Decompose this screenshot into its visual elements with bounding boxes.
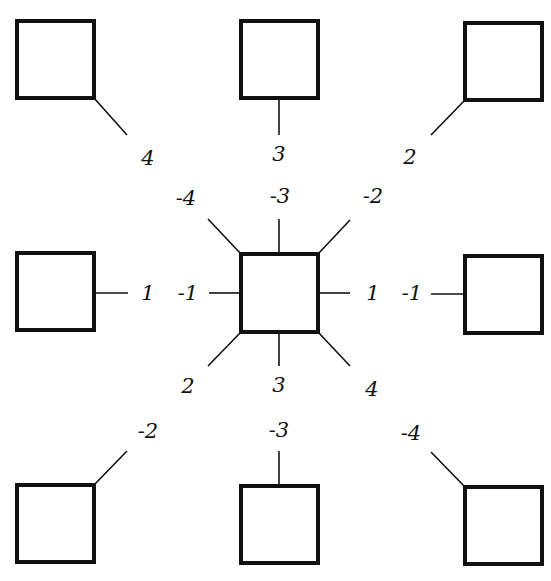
square-center xyxy=(241,254,318,332)
label-middle-right: -1 xyxy=(402,281,422,305)
label-top-middle: 3 xyxy=(272,142,285,166)
center-label-left: -1 xyxy=(178,281,198,305)
label-bottom-left: -2 xyxy=(138,419,158,443)
square-top-right xyxy=(465,23,542,100)
square-top-left xyxy=(17,21,94,98)
center-label-upper-left: -4 xyxy=(176,186,196,210)
center-stub-lower-right xyxy=(318,332,350,366)
label-top-left: 4 xyxy=(140,146,154,170)
center-label-right: 1 xyxy=(366,281,379,305)
center-stub-upper-left xyxy=(208,219,241,254)
square-middle-left xyxy=(17,253,94,330)
label-middle-left: 1 xyxy=(141,281,154,305)
stub-bottom-left xyxy=(94,451,127,485)
center-label-up: -3 xyxy=(270,184,290,208)
center-label-lower-right: 4 xyxy=(364,377,378,401)
label-top-right: 2 xyxy=(402,145,416,169)
square-bottom-right xyxy=(465,487,542,564)
square-bottom-middle xyxy=(241,486,318,563)
label-bottom-right: -4 xyxy=(401,421,421,445)
stub-top-right xyxy=(431,100,465,135)
center-stub-lower-left xyxy=(208,332,241,366)
center-stub-upper-right xyxy=(318,220,350,254)
square-top-middle xyxy=(241,21,318,98)
stub-top-left xyxy=(94,98,127,135)
center-label-upper-right: -2 xyxy=(363,184,383,208)
lattice-diagram: 4 3 2 1 -1 -2 -3 -4 -4 -3 -2 -1 1 2 3 4 xyxy=(0,0,551,581)
square-middle-right xyxy=(465,256,542,333)
label-bottom-middle: -3 xyxy=(269,418,289,442)
center-label-down: 3 xyxy=(272,373,285,397)
square-bottom-left xyxy=(17,485,94,562)
center-label-lower-left: 2 xyxy=(180,374,194,398)
stub-bottom-right xyxy=(431,452,465,487)
